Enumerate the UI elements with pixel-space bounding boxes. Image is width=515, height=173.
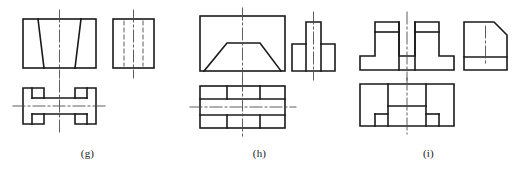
figure-label-i: (i) [342, 147, 515, 159]
figure-label-g: (g) [0, 147, 175, 159]
g-front-slant-right [75, 19, 81, 68]
group-g-drawing [0, 0, 175, 140]
group-h-drawing [172, 0, 347, 140]
figure-group-i: (i) [342, 0, 515, 173]
figure-group-h: (h) [172, 0, 347, 173]
group-g-svg [0, 0, 175, 140]
figure-sheet: (g) [0, 0, 515, 173]
g-front-slant-left [38, 19, 44, 68]
group-h-svg [172, 0, 347, 140]
i-center-lines [407, 12, 486, 134]
figure-group-g: (g) [0, 0, 175, 173]
figure-label-h: (h) [172, 147, 347, 159]
group-i-svg [342, 0, 515, 140]
h-center-lines [190, 8, 314, 136]
group-i-drawing [342, 0, 515, 140]
